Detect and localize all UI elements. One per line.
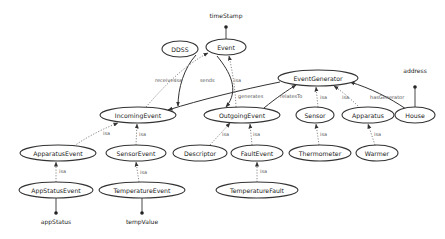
attribute-app-status: appStatus <box>41 198 71 226</box>
edge-label-isa: isa <box>253 131 260 137</box>
edge-isa-fault-event: isa <box>250 124 260 145</box>
node-temperature-fault[interactable]: TemperatureFault <box>216 182 298 198</box>
attr-label: timeStamp <box>209 12 242 20</box>
edge-label-generates: generates <box>238 93 264 100</box>
edge-line <box>136 124 137 145</box>
edge-relates-to: relatesTo <box>264 85 302 108</box>
svg-text:Sensor: Sensor <box>304 112 326 119</box>
edge-label-isa: isa <box>342 94 349 100</box>
svg-text:Thermometer: Thermometer <box>298 150 342 157</box>
node-warmer[interactable]: Warmer <box>356 145 398 161</box>
edge-label-isa: isa <box>140 169 147 175</box>
node-app-status-event[interactable]: AppStatusEvent <box>19 182 93 198</box>
svg-text:SensorEvent: SensorEvent <box>117 150 157 157</box>
svg-text:IncomingEvent: IncomingEvent <box>115 112 162 120</box>
svg-text:ApparatusEvent: ApparatusEvent <box>33 150 83 158</box>
node-apparatus[interactable]: Apparatus <box>342 107 394 123</box>
edge-isa-temperature-event: isa <box>136 162 147 182</box>
svg-text:EventGenerator: EventGenerator <box>293 75 343 82</box>
edge-label-isa: isa <box>175 77 182 83</box>
svg-text:TemperatureEvent: TemperatureEvent <box>113 187 171 195</box>
node-incoming-event[interactable]: IncomingEvent <box>100 107 176 123</box>
svg-text:Warmer: Warmer <box>365 150 390 157</box>
edge-isa-thermometer: isa <box>316 124 327 145</box>
ontology-diagram: receives sends isa isa generates relates… <box>0 0 445 239</box>
edge-label-isa: isa <box>139 131 146 137</box>
edge-line <box>217 56 233 107</box>
svg-text:Event: Event <box>217 44 235 51</box>
attr-label: address <box>403 67 427 74</box>
edge-label-isa: isa <box>103 130 110 136</box>
edge-isa-sensor: isa <box>316 87 327 107</box>
edge-isa-temperature-fault: isa <box>257 162 267 182</box>
node-thermometer[interactable]: Thermometer <box>289 145 351 161</box>
svg-text:DDSS: DDSS <box>171 46 188 53</box>
node-event-generator[interactable]: EventGenerator <box>278 70 358 86</box>
svg-text:FaultEvent: FaultEvent <box>241 150 274 157</box>
edge-isa-apparatus: isa <box>334 86 360 108</box>
attribute-address: address <box>403 67 427 107</box>
svg-text:OutgoingEvent: OutgoingEvent <box>219 112 266 120</box>
attribute-time-stamp: timeStamp <box>209 12 242 39</box>
edge-isa-sensor-event: isa <box>136 124 146 145</box>
edge-label-isa: isa <box>234 77 241 83</box>
edge-label-isa: isa <box>222 131 229 137</box>
node-house[interactable]: House <box>395 107 435 123</box>
node-sensor-event[interactable]: SensorEvent <box>106 145 166 161</box>
node-outgoing-event[interactable]: OutgoingEvent <box>204 107 280 123</box>
svg-text:AppStatusEvent: AppStatusEvent <box>31 187 81 195</box>
edge-line <box>316 124 319 145</box>
svg-text:Apparatus: Apparatus <box>352 112 384 120</box>
node-descriptor[interactable]: Descriptor <box>173 145 227 161</box>
diagram-svg: receives sends isa isa generates relates… <box>0 0 445 239</box>
edge-isa-apparatus-event: isa <box>74 123 118 146</box>
attribute-dot-icon <box>54 211 58 215</box>
node-fault-event[interactable]: FaultEvent <box>231 145 283 161</box>
edge-isa-app-status-event: isa <box>56 162 66 182</box>
edge-label-isa: isa <box>260 168 267 174</box>
edge-line <box>316 87 318 107</box>
svg-text:TemperatureFault: TemperatureFault <box>229 187 285 195</box>
edge-line <box>74 123 118 146</box>
node-sensor[interactable]: Sensor <box>296 107 334 123</box>
attr-label: appStatus <box>41 218 71 226</box>
edge-label-relates-to: relatesTo <box>280 93 302 99</box>
edge-line <box>250 124 252 145</box>
attr-label: tempValue <box>126 218 158 226</box>
edge-label-isa: isa <box>374 131 381 137</box>
edge-has-generator: hasGenerator <box>350 82 406 109</box>
svg-text:House: House <box>405 112 425 119</box>
edge-label-isa: isa <box>59 168 66 174</box>
node-ddss[interactable]: DDSS <box>162 41 198 57</box>
edge-isa-descriptor: isa <box>210 123 230 145</box>
attribute-dot-icon <box>140 211 144 215</box>
edge-generates: generates <box>168 82 280 110</box>
node-event[interactable]: Event <box>206 39 246 55</box>
svg-text:Descriptor: Descriptor <box>184 150 217 158</box>
edge-label-sends: sends <box>200 77 215 83</box>
edge-label-isa: isa <box>320 94 327 100</box>
edge-line <box>136 162 139 182</box>
edge-label-has-generator: hasGenerator <box>370 94 405 100</box>
node-temperature-event[interactable]: TemperatureEvent <box>99 182 185 198</box>
edge-isa-warmer: isa <box>368 124 381 145</box>
node-apparatus-event[interactable]: ApparatusEvent <box>20 145 96 161</box>
edge-label-isa: isa <box>320 131 327 137</box>
attribute-temp-value: tempValue <box>126 198 158 226</box>
